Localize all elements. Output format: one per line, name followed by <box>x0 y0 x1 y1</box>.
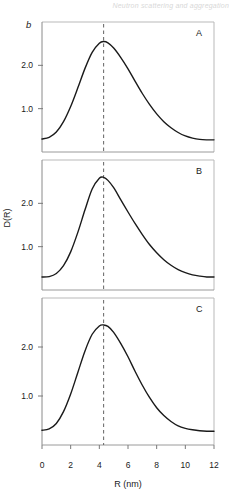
distribution-curve <box>42 41 214 139</box>
panel-label-c: C <box>196 304 203 314</box>
panel-label-a: A <box>196 28 202 38</box>
x-tick-label: 2 <box>63 460 79 470</box>
panel-a <box>38 22 214 152</box>
x-tick-label: 12 <box>206 460 222 470</box>
distribution-curve <box>42 325 214 432</box>
x-tick-label: 4 <box>91 460 107 470</box>
distribution-curve <box>42 177 214 277</box>
x-tick-label: 6 <box>120 460 136 470</box>
figure-panel-b: Neutron scattering and aggregation b D(R… <box>0 0 229 502</box>
y-tick-label: 2.0 <box>11 60 33 70</box>
y-tick-label: 2.0 <box>11 342 33 352</box>
panel-c <box>38 298 214 445</box>
y-tick-label: 2.0 <box>11 198 33 208</box>
panel-b <box>38 160 214 290</box>
y-tick-label: 1.0 <box>11 242 33 252</box>
y-tick-label: 1.0 <box>11 391 33 401</box>
panel-label-b: B <box>196 166 202 176</box>
x-tick-label: 10 <box>177 460 193 470</box>
x-tick-label: 0 <box>34 460 50 470</box>
y-tick-label: 1.0 <box>11 104 33 114</box>
plot-canvas <box>0 0 229 502</box>
x-tick-label: 8 <box>149 460 165 470</box>
